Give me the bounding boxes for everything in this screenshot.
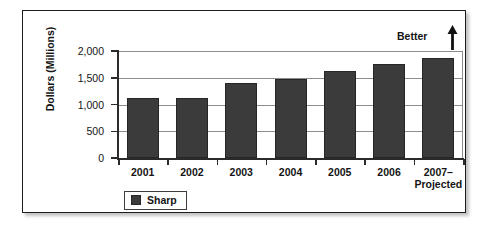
gridline [118,51,463,52]
y-axis-tick-label: 1,500 [56,73,104,84]
y-axis-tick-label: 1,000 [56,100,104,111]
x-axis-category-label: 2003 [217,167,266,179]
x-axis-category-label: 2006 [364,167,413,179]
y-axis-tick-label: 2,000 [56,46,104,57]
x-axis-tick [315,159,317,165]
y-axis-tick-label-wrap: 1,000 [56,100,104,101]
legend-swatch-sharp [131,195,141,205]
y-axis-tick-label-wrap: 0 [56,153,104,154]
x-axis-tick [463,159,465,165]
x-axis-category-label-line: 2003 [217,167,266,179]
x-axis-tick [414,159,416,165]
legend-label-sharp: Sharp [147,195,177,206]
x-axis-tick [167,159,169,165]
x-axis-tick [217,159,219,165]
chart-legend: Sharp [124,191,187,210]
x-axis-tick [118,159,120,165]
bar [176,98,208,158]
bar [373,64,405,158]
y-axis-tick-label: 500 [56,126,104,137]
x-axis-category-label: 2005 [315,167,364,179]
bar [324,71,356,158]
x-axis-category-label-line: 2006 [364,167,413,179]
x-axis-category-label-line: 2004 [266,167,315,179]
bar [127,98,159,159]
x-axis-category-label-line: 2007– [414,167,463,179]
bar [225,83,257,158]
up-arrow-icon [447,25,458,50]
x-axis-line [117,158,464,160]
y-axis-tick-label-wrap: 500 [56,126,104,127]
y-axis-tick-label-wrap: 2,000 [56,46,104,47]
y-axis-tick [111,50,118,52]
y-axis-title: Dollars (Millions) [44,9,56,129]
x-axis-category-label-line: 2005 [315,167,364,179]
y-axis-tick [111,77,118,79]
y-axis-tick-label-wrap: 1,500 [56,73,104,74]
x-axis-category-label: 2004 [266,167,315,179]
x-axis-category-label: 2002 [167,167,216,179]
x-axis-tick [266,159,268,165]
plot-area [118,51,463,158]
x-axis-tick [364,159,366,165]
bar [422,58,454,158]
y-axis-tick [111,131,118,133]
better-annotation-label: Better [397,31,427,42]
y-axis-tick-label: 0 [56,153,104,164]
x-axis-category-label-line: 2002 [167,167,216,179]
x-axis-category-label: 2001 [118,167,167,179]
chart-frame: Dollars (Millions) 05001,0001,5002,000 2… [22,10,466,213]
bar [275,79,307,158]
x-axis-category-label: 2007–Projected [414,167,463,190]
y-axis-tick [111,104,118,106]
x-axis-category-label-line: 2001 [118,167,167,179]
chart-figure: Dollars (Millions) 05001,0001,5002,000 2… [0,0,499,234]
x-axis-category-label-line: Projected [414,179,463,191]
